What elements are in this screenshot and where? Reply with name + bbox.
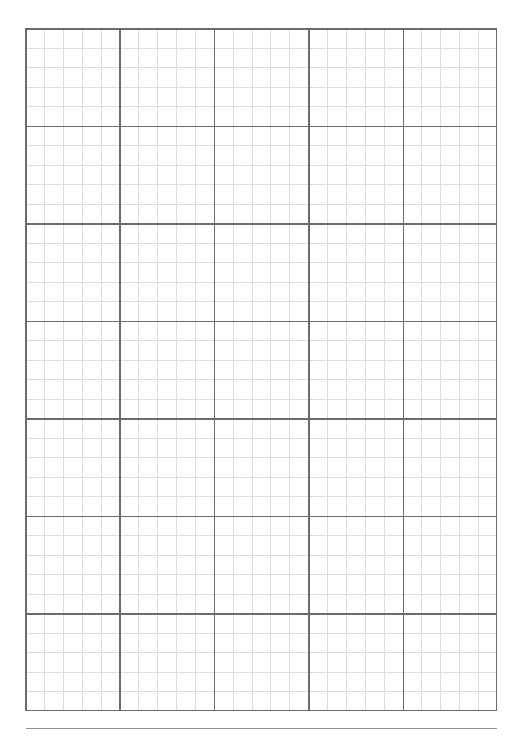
grid-outer-border [25, 28, 497, 711]
graph-paper-page [0, 0, 523, 737]
minor-gridlines [25, 28, 497, 711]
bottom-horizontal-rule [26, 728, 497, 729]
graph-paper-grid [25, 28, 497, 711]
major-gridlines [25, 28, 497, 711]
